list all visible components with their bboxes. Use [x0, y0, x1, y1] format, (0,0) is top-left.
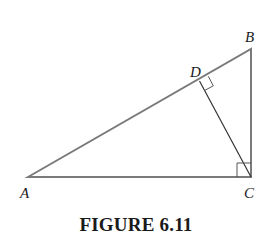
figure-6-11: A B C D FIGURE 6.11 — [0, 0, 272, 252]
vertex-label-c: C — [244, 185, 255, 201]
vertex-label-b: B — [245, 29, 254, 45]
vertex-label-d: D — [189, 64, 201, 80]
figure-caption: FIGURE 6.11 — [0, 214, 272, 236]
triangle-abc — [28, 49, 251, 177]
right-angle-mark-d — [205, 76, 214, 90]
vertex-label-a: A — [19, 185, 30, 201]
